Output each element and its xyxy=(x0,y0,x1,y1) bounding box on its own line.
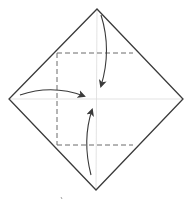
vertical-crease-line xyxy=(96,9,97,190)
arrow-top-to-center-icon xyxy=(101,15,107,86)
stray-mark xyxy=(61,197,62,199)
arrow-left-to-center-icon xyxy=(20,90,84,96)
origami-diagram xyxy=(0,0,191,204)
arrow-bottom-to-center-icon xyxy=(87,110,92,175)
